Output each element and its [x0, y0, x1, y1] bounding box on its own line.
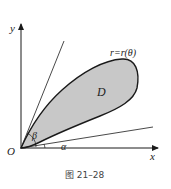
angle-beta-label: β: [31, 130, 37, 141]
y-axis-label: y: [9, 22, 15, 34]
angle-alpha-label: α: [61, 141, 67, 152]
curve-label: r=r(θ): [110, 47, 137, 59]
x-axis-label: x: [149, 150, 155, 162]
polar-region-diagram: y x O r=r(θ) D β α 图 21–28: [0, 0, 171, 189]
figure-caption: 图 21–28: [65, 170, 105, 180]
region-label: D: [96, 85, 106, 99]
origin-label: O: [7, 145, 15, 157]
